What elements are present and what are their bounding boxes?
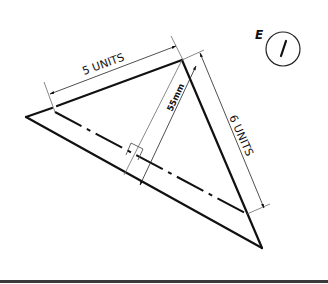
outer-triangle [26,60,262,248]
inner-base-dashed [55,112,247,214]
label-right-edge: 6 UNITS [226,113,256,158]
dimension-height [124,60,196,185]
dimension-top-edge [44,36,183,112]
label-height: 55mm [165,82,187,113]
sheet-mark-icon [281,41,286,56]
triangle-diagram: 5 UNITS 6 UNITS 55mm E [0,0,328,284]
bottom-rule [0,280,328,283]
inner-triangle [57,60,182,106]
sheet-letter: E [255,28,264,42]
dimension-right-edge [182,50,270,214]
